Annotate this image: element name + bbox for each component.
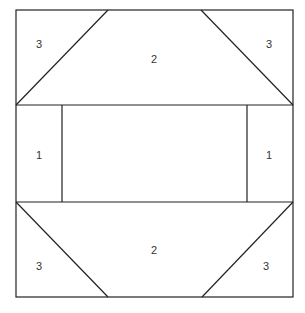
piecing-diagram: 3 2 3 1 1 3 2 3 (0, 0, 305, 313)
top-right-diagonal (201, 10, 293, 105)
label-middle-left-rect: 1 (36, 149, 42, 161)
label-bottom-trapezoid: 2 (151, 244, 157, 256)
label-top-right-triangle: 3 (266, 38, 272, 50)
label-middle-right-rect: 1 (266, 149, 272, 161)
label-bottom-left-triangle: 3 (36, 260, 42, 272)
bottom-left-diagonal (16, 202, 108, 297)
top-left-diagonal (16, 10, 108, 105)
label-top-left-triangle: 3 (36, 38, 42, 50)
bottom-right-diagonal (202, 202, 293, 297)
label-bottom-right-triangle: 3 (263, 260, 269, 272)
label-top-trapezoid: 2 (151, 53, 157, 65)
